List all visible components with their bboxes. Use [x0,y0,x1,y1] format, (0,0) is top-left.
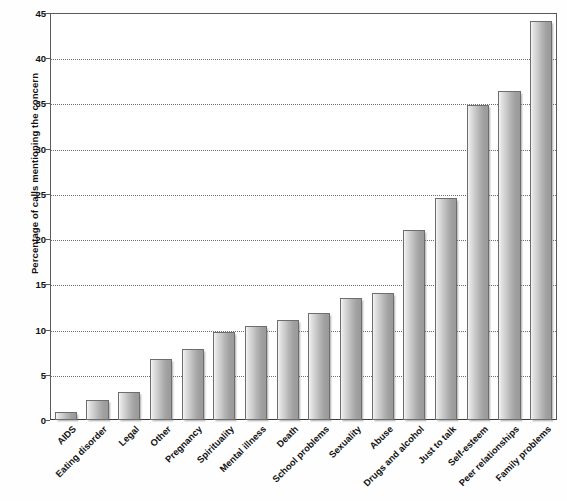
bar [308,313,330,420]
y-axis-title: Percentage of calls mentioning the conce… [29,44,40,304]
x-tick-label-text: AIDS [55,424,78,447]
bar [530,21,552,420]
x-tick-label-text: Legal [117,424,141,448]
y-tick-label-10: 10 [22,324,46,335]
x-tick-label-text: Peer relationships [457,424,521,488]
x-tick-label-text: Other [148,424,173,449]
x-tick-label-text: Death [274,424,299,449]
bars-group [50,13,557,420]
x-axis-labels: AIDSEating disorderLegalOtherPregnancySp… [50,420,557,501]
bar-chart: Percentage of calls mentioning the conce… [0,0,567,501]
y-tick-label-45: 45 [22,8,46,19]
bar [55,412,77,420]
y-tick-label-0: 0 [22,415,46,426]
bar [435,198,457,420]
x-tick-label-text: Family problems [494,424,553,483]
x-tick-label-text: Drugs and alcohol [362,424,426,488]
x-tick-label-text: School problems [271,424,331,484]
y-tick-label-5: 5 [22,369,46,380]
bar [403,230,425,420]
x-tick-label-text: Abuse [367,424,394,451]
bar [498,91,520,420]
